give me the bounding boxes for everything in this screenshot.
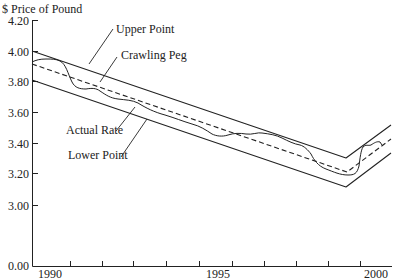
actual-rate-label: Actual Rate bbox=[66, 123, 123, 137]
y-tick-label: 3.20 bbox=[8, 167, 29, 181]
x-tick-label: 2000 bbox=[364, 267, 388, 280]
crawling-peg-chart: $ Price of Pound 4.20 4.00 3.80 3.60 3.4… bbox=[0, 0, 396, 280]
y-tick-label: 3.80 bbox=[8, 75, 29, 89]
y-tick-label: 3.00 bbox=[8, 199, 29, 213]
y-tick-label: 4.20 bbox=[8, 14, 29, 28]
x-tick-labels: 1990 1995 2000 bbox=[38, 267, 388, 280]
crawling-peg-label: Crawling Peg bbox=[121, 48, 187, 62]
y-tick-label: 3.40 bbox=[8, 137, 29, 151]
y-tick-label: 4.00 bbox=[8, 45, 29, 59]
upper-point-label: Upper Point bbox=[116, 22, 175, 36]
lower-point-label: Lower Point bbox=[68, 148, 128, 162]
y-tick-label: 3.60 bbox=[8, 106, 29, 120]
y-tick-labels: 4.20 4.00 3.80 3.60 3.40 3.20 3.00 0.00 bbox=[8, 14, 29, 273]
crawling-peg-leader bbox=[100, 57, 117, 82]
x-tick-label: 1990 bbox=[38, 267, 62, 280]
x-ticks bbox=[71, 261, 361, 266]
upper-point-leader bbox=[89, 29, 113, 64]
y-tick-label: 0.00 bbox=[8, 259, 29, 273]
x-tick-label: 1995 bbox=[206, 267, 230, 280]
axes bbox=[33, 20, 393, 267]
upper-point-line bbox=[32, 51, 391, 158]
